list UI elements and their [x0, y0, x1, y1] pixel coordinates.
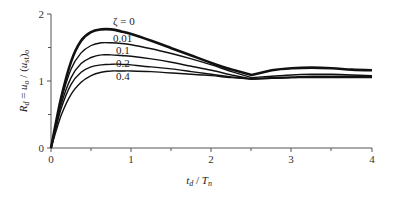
x-axis: [51, 148, 372, 152]
curve-label-zeta-0.4: 0.4: [116, 70, 130, 82]
curve-label-zeta-0.01: 0.01: [113, 32, 132, 44]
curve-label-zeta-0.1: 0.1: [116, 44, 130, 56]
curve-label-zeta-0.2: 0.2: [116, 57, 130, 69]
x-tick-label: 4: [369, 153, 375, 165]
curves: [51, 29, 372, 148]
curve-ζ=0.2: [51, 64, 372, 148]
response-spectrum-chart: 2 1 0 0 1 2 3 4 td / Tn Rd = uo / (ust)o…: [0, 0, 404, 197]
curve-ζ=0.01: [51, 43, 372, 148]
curve-ζ=0.4: [51, 71, 372, 148]
x-tick-label: 1: [128, 153, 134, 165]
x-tick-label: 3: [288, 153, 294, 165]
y-axis: [47, 14, 51, 148]
curve-label-zeta-0: ζ = 0: [113, 15, 135, 28]
curve-ζ=0: [51, 29, 372, 148]
x-axis-title: td / Tn: [186, 174, 212, 188]
x-tick-label: 0: [48, 153, 54, 165]
y-axis-title: Rd = uo / (ust)o: [17, 50, 31, 114]
y-tick-label: 0: [39, 142, 45, 154]
y-tick-label: 1: [39, 75, 45, 87]
x-tick-label: 2: [208, 153, 214, 165]
y-tick-label: 2: [39, 8, 45, 20]
